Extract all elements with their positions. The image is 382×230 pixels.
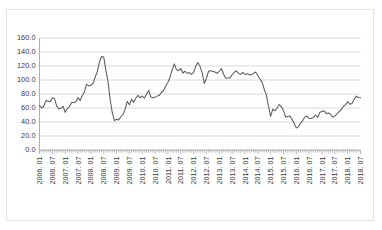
x-axis-tick-label: 2016. 07 [305, 157, 314, 185]
y-axis-tick-label: 40.0 [21, 117, 35, 126]
x-axis-tick-label: 2007. 01 [61, 157, 70, 185]
x-axis-tick-label: 2018. 07 [356, 157, 365, 185]
x-axis-tick-label: 2014. 07 [253, 157, 262, 185]
y-axis-tick-label: 120.0 [17, 61, 36, 70]
x-axis-tick-label: 2014. 01 [241, 157, 250, 185]
data-series-line [40, 57, 361, 128]
y-axis-tick-label: 0.0 [25, 145, 35, 154]
x-axis-tick-label: 2017. 07 [330, 157, 339, 185]
data-series-group [40, 57, 361, 128]
x-axis-tick-label: 2008. 07 [99, 157, 108, 185]
y-axis-tick-label: 60.0 [21, 103, 35, 112]
x-axis-tick-marks [40, 150, 361, 154]
x-axis-tick-label: 2012. 07 [202, 157, 211, 185]
chart-container: 0.020.040.060.080.0100.0120.0140.0160.0 … [0, 0, 382, 230]
x-axis-tick-label: 2013. 01 [215, 157, 224, 185]
x-axis-tick-label: 2016. 01 [292, 157, 301, 185]
x-axis-tick-label: 2010. 07 [151, 157, 160, 185]
y-axis-tick-labels: 0.020.040.060.080.0100.0120.0140.0160.0 [17, 33, 36, 154]
x-axis-tick-label: 2007. 07 [74, 157, 83, 185]
x-axis-tick-label: 2015. 07 [279, 157, 288, 185]
x-axis-tick-label: 2013. 07 [228, 157, 237, 185]
x-axis-tick-labels: 2006. 012006. 072007. 012007. 072008. 01… [35, 157, 365, 185]
x-axis-tick-label: 2018. 01 [343, 157, 352, 185]
y-axis-tick-label: 140.0 [17, 47, 36, 56]
x-axis-tick-label: 2008. 01 [86, 157, 95, 185]
x-axis-tick-label: 2006. 01 [35, 157, 44, 185]
x-axis-tick-label: 2010. 01 [138, 157, 147, 185]
line-chart: 0.020.040.060.080.0100.0120.0140.0160.0 … [0, 0, 382, 230]
x-axis-tick-label: 2006. 07 [48, 157, 57, 185]
gridlines [40, 38, 361, 150]
x-axis-tick-label: 2015. 01 [266, 157, 275, 185]
x-axis-tick-label: 2009. 01 [112, 157, 121, 185]
y-axis-tick-label: 100.0 [17, 75, 36, 84]
x-axis-tick-label: 2011. 01 [164, 157, 173, 184]
x-axis-tick-label: 2011. 07 [176, 157, 185, 184]
x-axis-tick-label: 2012. 01 [189, 157, 198, 185]
x-axis-tick-label: 2009. 07 [125, 157, 134, 185]
y-axis-tick-label: 80.0 [21, 89, 35, 98]
y-axis-tick-label: 20.0 [21, 131, 35, 140]
x-axis-tick-label: 2017. 01 [318, 157, 327, 185]
y-axis-tick-label: 160.0 [17, 33, 36, 42]
